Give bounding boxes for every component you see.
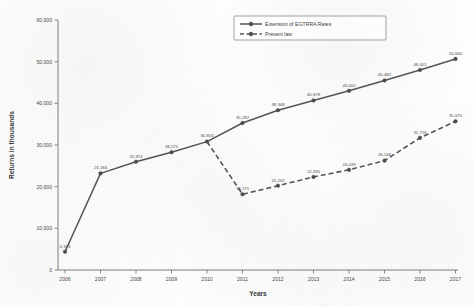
y-tick-label: 60,000 xyxy=(36,17,52,23)
x-tick-label: 2015 xyxy=(379,276,390,282)
x-tick-label: 2016 xyxy=(414,276,425,282)
data-point[interactable] xyxy=(134,160,138,164)
data-point[interactable] xyxy=(276,184,280,188)
data-point[interactable] xyxy=(241,192,245,196)
data-point-label: 28,275 xyxy=(165,144,179,149)
data-point[interactable] xyxy=(63,250,67,254)
data-point-label: 22,335 xyxy=(307,169,321,174)
data-point[interactable] xyxy=(454,120,458,124)
y-tick-label: 0 xyxy=(49,267,52,273)
series-layer: 4,37323,18425,97428,27530,81635,28238,34… xyxy=(60,51,463,254)
x-tick-label: 2013 xyxy=(308,276,319,282)
x-axis-tick-labels: 2006 2007 2008 2009 2010 2011 2012 2013 … xyxy=(59,276,461,282)
data-point[interactable] xyxy=(418,68,422,72)
chart-canvas: 0 10,000 20,000 30,000 40,000 50,000 60,… xyxy=(0,0,473,307)
x-tick-label: 2006 xyxy=(59,276,70,282)
data-point-label: 35,675 xyxy=(449,113,463,118)
data-point[interactable] xyxy=(383,159,387,163)
data-point[interactable] xyxy=(383,79,387,83)
chart-legend: Extension of EGTRRA Rates Present law xyxy=(234,16,386,40)
data-point-label: 48,001 xyxy=(413,62,427,67)
series-line xyxy=(65,59,456,252)
data-point-label: 20,232 xyxy=(271,178,285,183)
data-point-label: 40,678 xyxy=(307,92,321,97)
data-point[interactable] xyxy=(170,150,174,154)
line-chart: 0 10,000 20,000 30,000 40,000 50,000 60,… xyxy=(0,0,473,307)
x-axis-title: Years xyxy=(249,290,267,297)
data-point-label: 43,000 xyxy=(342,83,356,88)
x-tick-label: 2007 xyxy=(95,276,106,282)
data-point-label: 23,184 xyxy=(94,165,108,170)
data-point-label: 35,282 xyxy=(236,115,250,120)
data-point[interactable] xyxy=(454,57,458,61)
data-point[interactable] xyxy=(276,108,280,112)
x-tick-label: 2012 xyxy=(272,276,283,282)
y-tick-label: 40,000 xyxy=(36,100,52,106)
y-axis-title: Returns in thousands xyxy=(8,111,15,179)
data-point[interactable] xyxy=(312,175,316,179)
data-point-label: 26,246 xyxy=(378,152,392,157)
y-axis: 0 10,000 20,000 30,000 40,000 50,000 60,… xyxy=(8,17,58,273)
data-point-label: 18,171 xyxy=(236,186,250,191)
data-point-label: 50,660 xyxy=(449,51,463,56)
x-axis: 2006 2007 2008 2009 2010 2011 2012 2013 … xyxy=(58,270,461,297)
data-point-label: 4,373 xyxy=(60,244,71,249)
y-axis-ticks xyxy=(55,20,59,270)
x-tick-label: 2014 xyxy=(343,276,354,282)
x-tick-label: 2011 xyxy=(237,276,248,282)
data-point-label: 31,716 xyxy=(413,130,427,135)
legend-label-extension: Extension of EGTRRA Rates xyxy=(265,21,332,27)
y-tick-label: 30,000 xyxy=(36,142,52,148)
data-point[interactable] xyxy=(347,168,351,172)
data-point[interactable] xyxy=(347,89,351,93)
x-tick-label: 2010 xyxy=(201,276,212,282)
series-present-law: 18,17120,23222,33524,03926,24631,71635,6… xyxy=(207,113,463,196)
data-point-label: 30,816 xyxy=(200,133,214,138)
series-extension: 4,37323,18425,97428,27530,81635,28238,34… xyxy=(60,51,463,254)
x-tick-label: 2017 xyxy=(450,276,461,282)
data-point[interactable] xyxy=(312,99,316,103)
data-point[interactable] xyxy=(241,121,245,125)
data-point[interactable] xyxy=(418,136,422,140)
y-tick-label: 50,000 xyxy=(36,59,52,65)
data-point-label: 45,482 xyxy=(378,72,392,77)
legend-label-present-law: Present law xyxy=(265,31,292,37)
x-tick-label: 2009 xyxy=(166,276,177,282)
x-tick-label: 2008 xyxy=(130,276,141,282)
data-point-label: 25,974 xyxy=(129,154,143,159)
data-point-label: 24,039 xyxy=(342,162,356,167)
data-point[interactable] xyxy=(99,172,103,176)
y-axis-tick-labels: 0 10,000 20,000 30,000 40,000 50,000 60,… xyxy=(36,17,52,273)
y-tick-label: 10,000 xyxy=(36,225,52,231)
x-axis-ticks xyxy=(65,270,456,274)
y-tick-label: 20,000 xyxy=(36,184,52,190)
data-point-label: 38,348 xyxy=(271,102,285,107)
